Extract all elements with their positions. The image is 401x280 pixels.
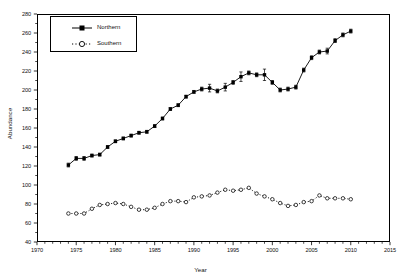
x-tick-1990: 1990 <box>180 247 208 253</box>
y-tick-280: 280 <box>0 11 31 17</box>
y-tick-80: 80 <box>0 201 31 207</box>
y-axis-title: Abundance <box>6 84 13 164</box>
y-tick-40: 40 <box>0 239 31 245</box>
legend-marker-southern <box>71 37 93 51</box>
chart-legend: Northern Southern <box>50 16 137 52</box>
legend-item-northern: Northern <box>51 21 136 35</box>
x-tick-1970: 1970 <box>23 247 51 253</box>
y-tick-260: 260 <box>0 30 31 36</box>
y-tick-100: 100 <box>0 182 31 188</box>
legend-marker-northern <box>71 21 93 35</box>
legend-label-southern: Southern <box>97 40 121 46</box>
x-tick-2010: 2010 <box>337 247 365 253</box>
legend-item-southern: Southern <box>51 37 136 51</box>
x-tick-1980: 1980 <box>101 247 129 253</box>
x-tick-1985: 1985 <box>141 247 169 253</box>
x-tick-2015: 2015 <box>376 247 401 253</box>
x-tick-1975: 1975 <box>62 247 90 253</box>
chart-figure: 406080100120140160180200220240260280 197… <box>0 0 401 280</box>
x-axis-title: Year <box>0 266 401 273</box>
legend-label-northern: Northern <box>97 24 120 30</box>
x-tick-2005: 2005 <box>298 247 326 253</box>
y-tick-60: 60 <box>0 220 31 226</box>
x-tick-1995: 1995 <box>219 247 247 253</box>
x-tick-2000: 2000 <box>258 247 286 253</box>
y-tick-240: 240 <box>0 49 31 55</box>
y-tick-220: 220 <box>0 68 31 74</box>
